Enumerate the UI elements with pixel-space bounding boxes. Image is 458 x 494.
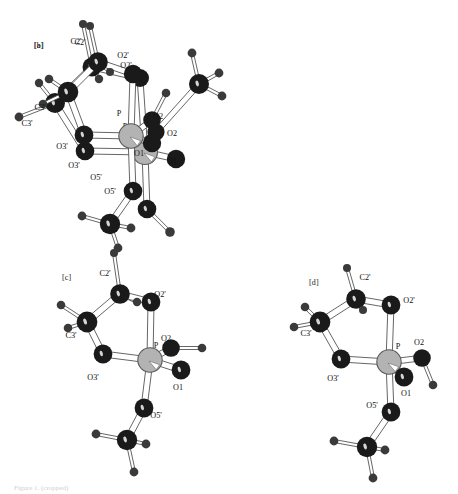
atom-h-on-c2 <box>86 22 94 30</box>
atom-c5 <box>100 214 120 234</box>
atom-c2 <box>88 52 108 72</box>
atom-label-O2p: O2' <box>403 296 415 305</box>
atom-h-c2b <box>133 298 141 306</box>
atom-h-on-c2 <box>343 264 351 272</box>
atom-h-c3a <box>301 303 310 312</box>
atom-c5 <box>117 430 137 450</box>
atom-c3 <box>310 312 331 333</box>
atom-h-o2 <box>162 89 171 98</box>
atom-label-O2: O2 <box>161 334 171 343</box>
atom-label-C3p: C3' <box>65 331 77 340</box>
atom-h-on-c2 <box>110 249 118 257</box>
atom-label-O2p: O2' <box>154 290 166 299</box>
atom-label-C2p: C2' <box>74 38 86 47</box>
atom-label-P: P <box>117 109 122 118</box>
atom-h-c5c <box>369 474 378 483</box>
atom-h-e2c <box>218 92 227 101</box>
atom-h-e2b <box>215 69 224 78</box>
atom-o5 <box>138 200 157 219</box>
atom-label-O1: O1 <box>167 157 177 166</box>
atom-c-ester2 <box>189 74 209 94</box>
atom-label-O5p: O5' <box>366 401 378 410</box>
atom-p <box>138 348 162 372</box>
atom-label-C2p: C2' <box>359 273 371 282</box>
atom-o1 <box>172 361 191 380</box>
atom-h-o2 <box>429 381 438 390</box>
atom-h-c2b <box>95 75 103 83</box>
atom-p <box>119 124 143 148</box>
atom-h-o2 <box>198 344 207 353</box>
atom-c2 <box>346 289 366 309</box>
atom-h-c2b <box>359 306 367 314</box>
atom-c5 <box>357 437 377 457</box>
panel-tag-b: [b] <box>34 41 44 50</box>
atom-h-c5b <box>142 440 151 449</box>
atom-o2 <box>413 349 431 367</box>
atom-h-c3a <box>35 79 43 87</box>
atom-h-c3a <box>45 75 54 84</box>
atom-label-O2p: O2' <box>120 61 132 70</box>
atom-o1 <box>395 368 414 387</box>
atom-h-c5a <box>330 437 339 446</box>
atom-label-O1: O1 <box>173 383 183 392</box>
atom-label-O1: O1 <box>401 389 411 398</box>
atoms-d <box>290 264 438 482</box>
structures-canvas: C2'O2'C3'PO2O3'O1O5'C2'O2'C3'PO2O3'O1O5'… <box>0 0 458 494</box>
atom-h-c5a <box>78 212 87 221</box>
atom-label-C3p: C3' <box>300 329 312 338</box>
atom-label-P: P <box>396 342 401 351</box>
atom-label-O3p: O3' <box>327 374 339 383</box>
atom-label-O3p: O3' <box>68 161 80 170</box>
atom-c3 <box>77 312 98 333</box>
atom-o5 <box>382 403 401 422</box>
atom-label-C3p: C3' <box>21 119 33 128</box>
atom-c2 <box>110 284 130 304</box>
atom-o5 <box>124 182 143 201</box>
atom-label-O2: O2 <box>167 129 177 138</box>
atom-h-c5c <box>130 468 139 477</box>
atom-c5 <box>165 227 175 237</box>
atom-label-O5p: O5' <box>150 411 162 420</box>
atom-label-C2p: C2' <box>99 269 111 278</box>
atoms-c <box>57 249 207 476</box>
atom-h-c3b <box>290 323 299 332</box>
molecular-structure-figure: C2'O2'C3'PO2O3'O1O5'C2'O2'C3'PO2O3'O1O5'… <box>0 0 458 494</box>
atom-label-O1: O1 <box>134 149 144 158</box>
atom-label-O3p: O3' <box>56 142 68 151</box>
atom-h-c5b <box>381 446 390 455</box>
atom-o3 <box>76 142 95 161</box>
atom-o1 <box>143 134 161 152</box>
atom-h-c2b <box>106 68 114 76</box>
panel-tag-d: [d] <box>309 278 319 287</box>
panel-tag-c: [c] <box>62 273 71 282</box>
atom-label-O3p: O3' <box>87 373 99 382</box>
atom-label-O2: O2 <box>414 338 424 347</box>
atom-h-on-c2 <box>79 20 87 28</box>
atom-label-O5p: O5' <box>104 187 116 196</box>
atom-o2 <box>382 296 401 315</box>
atom-label-C3p: C3' <box>34 103 46 112</box>
atom-h-e2a <box>188 49 197 58</box>
atom-label-P: P <box>154 341 159 350</box>
atom-o3 <box>94 345 113 364</box>
atom-label-O2: O2 <box>153 112 163 121</box>
atom-o3 <box>332 350 351 369</box>
atom-h-c5a <box>92 430 101 439</box>
atom-label-O2p: O2' <box>117 51 129 60</box>
atom-c3 <box>58 82 79 103</box>
atom-h-c5b <box>127 224 136 233</box>
figure-caption: Figure 1. (cropped) <box>14 484 444 493</box>
atom-h-c3a <box>57 301 66 310</box>
atom-label-O5p: O5' <box>90 173 102 182</box>
atom-o3 <box>75 126 94 145</box>
